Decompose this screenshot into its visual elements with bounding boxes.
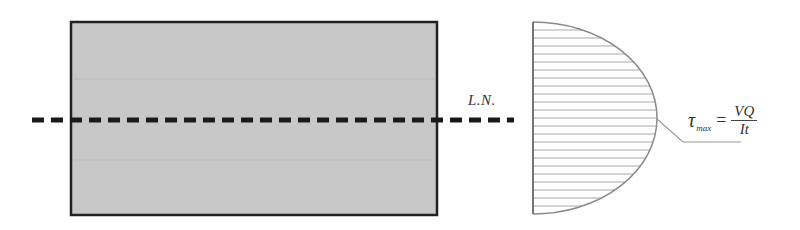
tau-subscript: max [696, 123, 711, 133]
equals-sign: = [716, 110, 726, 131]
neutral-axis-label: L.N. [468, 92, 496, 109]
fraction-denominator: It [740, 121, 749, 138]
tau-symbol: τ [688, 109, 695, 132]
max-shear-formula: τ max = VQ It [688, 103, 757, 138]
fraction-numerator: VQ [731, 103, 757, 121]
fraction: VQ It [731, 103, 757, 138]
shear-distribution-shape [533, 22, 660, 214]
shear-stress-diagram [0, 0, 800, 230]
